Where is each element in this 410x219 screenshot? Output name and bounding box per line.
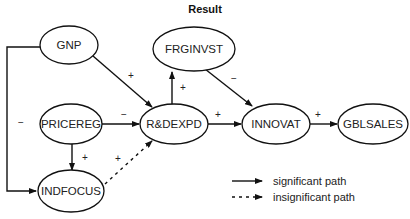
sign-frginvst-innovat: − — [231, 73, 237, 84]
node-rdexpd-label: R&DEXPD — [146, 118, 202, 130]
legend-significant-label: significant path — [273, 175, 346, 187]
edge-frginvst-innovat — [205, 69, 252, 106]
sign-pricereg-rdexpd: − — [121, 109, 127, 120]
node-indfocus: INDFOCUS — [38, 170, 104, 212]
node-pricereg: PRICEREG — [40, 104, 102, 144]
sign-gnp-indfocus: − — [18, 117, 24, 128]
sign-indfocus-rdexpd: + — [115, 153, 121, 164]
edge-indfocus-rdexpd — [105, 141, 152, 184]
node-gblsales-label: GBLSALES — [343, 118, 403, 130]
sign-pricereg-indfocus: + — [82, 152, 88, 163]
node-gblsales: GBLSALES — [338, 104, 408, 144]
node-frginvst-label: FRGINVST — [165, 43, 223, 55]
node-innovat-label: INNOVAT — [251, 118, 300, 130]
legend: significant path insignificant path — [232, 175, 355, 203]
node-rdexpd: R&DEXPD — [140, 104, 208, 144]
node-frginvst: FRGINVST — [153, 27, 235, 71]
diagram-title: Result — [188, 3, 222, 15]
edge-gnp-rdexpd — [93, 56, 152, 107]
node-gnp-label: GNP — [57, 39, 82, 51]
sign-rdexpd-frginvst: + — [180, 82, 186, 93]
node-gnp: GNP — [40, 26, 98, 64]
sign-gnp-rdexpd: + — [128, 70, 134, 81]
node-pricereg-label: PRICEREG — [41, 118, 101, 130]
sign-innovat-gblsales: + — [315, 109, 321, 120]
path-diagram: Result + − + − − + + + + GNP FRGINVST PR… — [0, 0, 410, 219]
legend-insignificant-label: insignificant path — [273, 191, 355, 203]
node-innovat: INNOVAT — [242, 104, 310, 144]
node-indfocus-label: INDFOCUS — [41, 185, 101, 197]
sign-rdexpd-innovat: + — [215, 109, 221, 120]
